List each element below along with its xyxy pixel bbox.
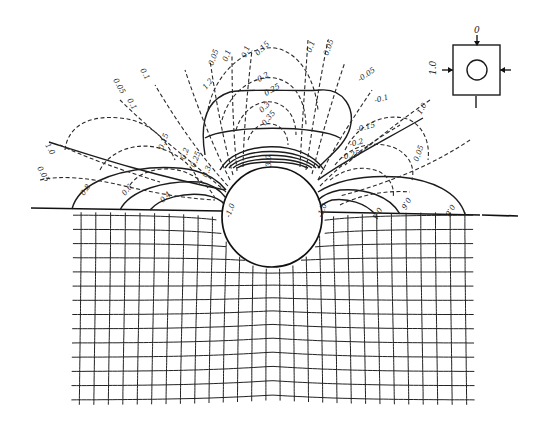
label-dash-top-0: 0.1 xyxy=(220,48,233,62)
label-dash-left-5: 0.2 xyxy=(178,146,191,161)
label-dash-left-3: 0.05 xyxy=(35,165,51,184)
label-solid-right-1.0: 1.0 xyxy=(415,101,429,116)
inset-top-label: 0 xyxy=(474,25,480,35)
label-dash-right-7: 0.05 xyxy=(411,144,425,163)
label-center-3.0: 3.0 xyxy=(264,155,273,167)
inset-loading-diagram: 0 1.0 xyxy=(428,25,511,108)
label-dash-right-2: -0.05 xyxy=(356,65,377,84)
label-solid-left-0.8: 0.8 xyxy=(78,182,92,197)
label-hole-left: -1.0 xyxy=(223,202,236,219)
dashed-contours xyxy=(40,40,470,205)
label-solid-left-0.6: 0.6 xyxy=(120,182,135,197)
label-dash-left-2: 0.1 xyxy=(138,67,152,82)
label-dash-top-1: 0.05 xyxy=(206,48,220,67)
label-dash-right-4: -0.15 xyxy=(355,120,376,134)
stress-contour-diagram: 0 1.0 xyxy=(0,0,545,434)
label-dash-right-0: 0.1 xyxy=(304,39,317,53)
label-dash-top-2: 0.1 xyxy=(239,44,252,58)
label-dash-top-4: 0.2 xyxy=(256,70,271,84)
label-hole-right: -1.0 xyxy=(315,202,328,219)
label-dash-right-5: -0.2 xyxy=(348,136,365,148)
label-solid-right-0.6: 0.6 xyxy=(399,196,413,211)
inset-left-label: 1.0 xyxy=(428,60,438,75)
label-dash-left-6: 0.25 xyxy=(188,150,202,169)
label-dash-right-1: 0.05 xyxy=(321,38,335,57)
hole-circle xyxy=(222,167,322,267)
label-dash-left-0: 0.1 xyxy=(125,97,139,112)
label-dash-right-3: -0.1 xyxy=(373,92,389,104)
label-dash-top-5: 0.25 xyxy=(263,81,282,97)
label-dash-left-1: 0.05 xyxy=(111,77,127,96)
deformed-grid xyxy=(71,212,474,405)
